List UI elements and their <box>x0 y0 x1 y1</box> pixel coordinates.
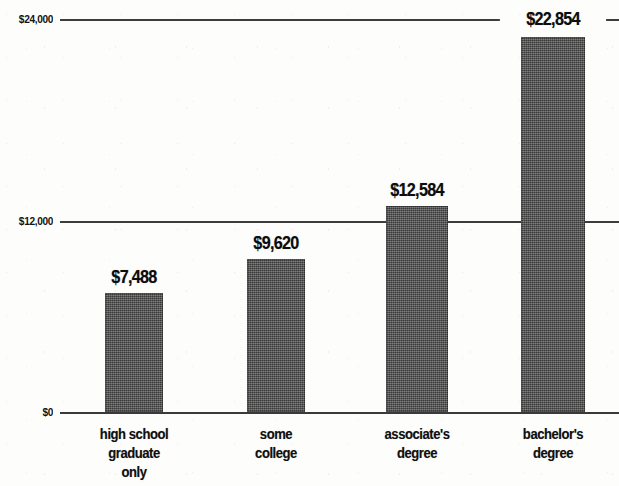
bar-high-school-graduate-only <box>105 293 163 412</box>
value-label-some-college: $9,620 <box>227 233 326 254</box>
category-line-2: degree <box>368 444 467 463</box>
category-line-1: high school <box>85 425 184 444</box>
category-label-bachelors-degree: bachelor's degree <box>504 425 603 463</box>
y-tick-12000: $12,000 <box>6 215 53 227</box>
bar-some-college <box>247 259 305 412</box>
category-line-1: bachelor's <box>504 425 603 444</box>
category-line-1: some <box>227 425 326 444</box>
category-line-1: associate's <box>368 425 467 444</box>
category-label-associates-degree: associate's degree <box>368 425 467 463</box>
value-label-high-school-graduate-only: $7,488 <box>85 267 184 288</box>
axis-baseline <box>60 412 619 414</box>
value-label-associates-degree: $12,584 <box>368 180 467 201</box>
category-label-high-school-graduate-only: high school graduate only <box>85 425 184 482</box>
bar-chart: $24,000 $12,000 $0 $7,488 $9,620 $12,584… <box>0 0 619 486</box>
category-line-2: college <box>227 444 326 463</box>
y-tick-0: $0 <box>6 406 53 418</box>
category-line-3: only <box>85 463 184 482</box>
bar-associates-degree <box>386 206 448 412</box>
category-line-2: degree <box>504 444 603 463</box>
category-label-some-college: some college <box>227 425 326 463</box>
value-label-bachelors-degree: $22,854 <box>500 9 606 30</box>
y-tick-24000: $24,000 <box>6 13 53 25</box>
category-line-2: graduate <box>85 444 184 463</box>
bar-bachelors-degree <box>521 37 585 412</box>
